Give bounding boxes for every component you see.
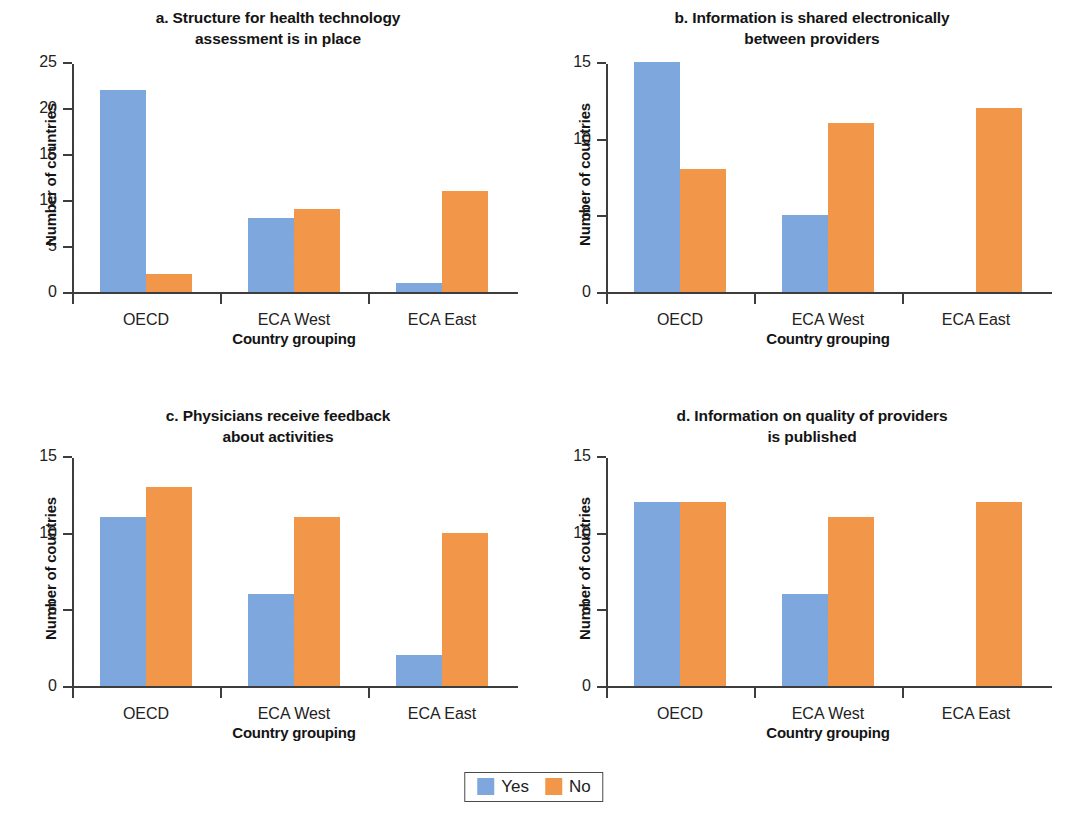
panel-title-b: b. Information is shared electronicallyb… (574, 8, 1050, 50)
legend-item-no[interactable]: No (545, 778, 591, 795)
y-tick: 0 (597, 686, 606, 688)
y-tick: 10 (597, 139, 606, 141)
y-tick: 5 (63, 246, 72, 248)
y-tick: 20 (63, 108, 72, 110)
axes-c: 051015OECDECA WestECA East (72, 458, 516, 688)
y-tick-label: 5 (582, 600, 591, 618)
y-tick: 25 (63, 62, 72, 64)
x-category-label: ECA West (792, 705, 865, 723)
bar-b-eca-west-no (828, 123, 874, 292)
bar-b-oecd-yes (634, 62, 680, 292)
panel-title-line: about activities (40, 427, 516, 448)
y-tick-label: 10 (573, 524, 591, 542)
x-category-label: OECD (657, 705, 703, 723)
y-tick: 15 (597, 456, 606, 458)
legend-label: No (569, 778, 591, 795)
bar-a-eca-east-yes (396, 283, 442, 292)
y-tick-label: 15 (39, 447, 57, 465)
x-group-divider (220, 294, 222, 304)
y-tick-label: 0 (48, 677, 57, 695)
x-group-divider (754, 688, 756, 698)
panel-title-d: d. Information on quality of providersis… (574, 406, 1050, 448)
bar-c-oecd-yes (100, 517, 146, 686)
bar-b-eca-east-no (976, 108, 1022, 292)
bar-a-eca-west-no (294, 209, 340, 292)
y-axis-spine (606, 458, 608, 688)
y-tick-label: 20 (39, 99, 57, 117)
bar-c-oecd-no (146, 487, 192, 686)
x-axis-label: Country grouping (606, 330, 1050, 347)
bar-a-eca-east-no (442, 191, 488, 292)
plot-area-d: Number of countries051015OECDECA WestECA… (534, 452, 1068, 742)
plot-area-a: Number of countries0510152025OECDECA Wes… (0, 58, 534, 348)
y-axis-label: Number of countries (576, 57, 593, 293)
bar-d-oecd-yes (634, 502, 680, 686)
x-axis-origin-tick (72, 294, 74, 304)
x-category-label: ECA West (792, 311, 865, 329)
panel-title-line: is published (574, 427, 1050, 448)
y-axis-spine (606, 64, 608, 294)
panel-title-line: c. Physicians receive feedback (40, 406, 516, 427)
y-tick-label: 10 (573, 130, 591, 148)
bar-b-oecd-no (680, 169, 726, 292)
panel-title-line: between providers (574, 29, 1050, 50)
y-axis-label: Number of countries (42, 451, 59, 687)
bar-c-eca-east-yes (396, 655, 442, 686)
y-tick-label: 5 (48, 237, 57, 255)
y-tick: 0 (597, 292, 606, 294)
y-tick: 0 (63, 686, 72, 688)
bar-d-eca-west-yes (782, 594, 828, 686)
y-tick-label: 5 (582, 206, 591, 224)
y-tick-label: 15 (573, 447, 591, 465)
x-axis-origin-tick (606, 294, 608, 304)
panel-title-line: assessment is in place (40, 29, 516, 50)
legend-item-yes[interactable]: Yes (477, 778, 529, 795)
x-axis-spine (72, 292, 518, 294)
y-tick: 10 (63, 533, 72, 535)
y-tick: 5 (597, 609, 606, 611)
bar-c-eca-west-no (294, 517, 340, 686)
x-axis-label: Country grouping (72, 724, 516, 741)
chart-panel-b: b. Information is shared electronicallyb… (534, 0, 1068, 400)
x-group-divider (902, 294, 904, 304)
y-axis-label: Number of countries (42, 57, 59, 293)
x-group-divider (902, 688, 904, 698)
axes-a: 0510152025OECDECA WestECA East (72, 64, 516, 294)
y-tick-label: 10 (39, 524, 57, 542)
x-axis-origin-tick (72, 688, 74, 698)
axes-b: 051015OECDECA WestECA East (606, 64, 1050, 294)
plot-area-b: Number of countries051015OECDECA WestECA… (534, 58, 1068, 348)
axes-d: 051015OECDECA WestECA East (606, 458, 1050, 688)
bar-b-eca-west-yes (782, 215, 828, 292)
y-axis-label: Number of countries (576, 451, 593, 687)
bar-a-oecd-yes (100, 90, 146, 292)
legend-label: Yes (501, 778, 529, 795)
y-tick: 5 (597, 215, 606, 217)
x-category-label: ECA East (942, 311, 1010, 329)
y-tick: 5 (63, 609, 72, 611)
x-category-label: ECA West (258, 311, 331, 329)
x-group-divider (220, 688, 222, 698)
y-tick-label: 15 (39, 145, 57, 163)
y-tick: 10 (597, 533, 606, 535)
y-tick-label: 15 (573, 53, 591, 71)
x-axis-label: Country grouping (606, 724, 1050, 741)
legend-swatch-yes-icon (477, 778, 494, 795)
x-category-label: ECA West (258, 705, 331, 723)
figure-grid: a. Structure for health technologyassess… (0, 0, 1068, 762)
chart-panel-c: c. Physicians receive feedbackabout acti… (0, 400, 534, 762)
bar-d-eca-east-no (976, 502, 1022, 686)
y-tick-label: 25 (39, 53, 57, 71)
bar-a-eca-west-yes (248, 218, 294, 292)
x-group-divider (368, 294, 370, 304)
y-tick: 10 (63, 200, 72, 202)
plot-area-c: Number of countries051015OECDECA WestECA… (0, 452, 534, 742)
x-category-label: ECA East (942, 705, 1010, 723)
x-axis-spine (606, 686, 1052, 688)
x-category-label: ECA East (408, 705, 476, 723)
bar-a-oecd-no (146, 274, 192, 292)
x-axis-origin-tick (606, 688, 608, 698)
bar-c-eca-east-no (442, 533, 488, 686)
y-tick: 15 (63, 154, 72, 156)
y-tick-label: 5 (48, 600, 57, 618)
